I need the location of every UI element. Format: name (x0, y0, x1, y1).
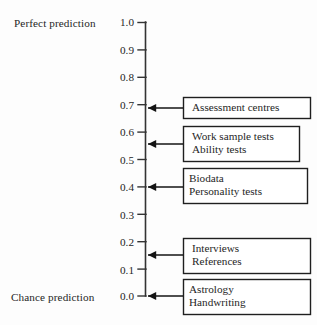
box-label-work-sample-ability: Work sample tests Ability tests (192, 130, 274, 155)
tick-label-0.1: 0.1 (108, 264, 134, 276)
box-label-interviews-references: Interviews References (192, 242, 242, 267)
tick-label-0.0: 0.0 (108, 290, 134, 302)
box-line: Astrology (189, 283, 246, 296)
box-line: Assessment centres (192, 101, 279, 114)
tick-label-0.7: 0.7 (108, 99, 134, 111)
chance-prediction-label: Chance prediction (11, 291, 94, 303)
box-label-biodata-personality: Biodata Personality tests (189, 172, 262, 197)
tick-label-0.2: 0.2 (108, 236, 134, 248)
figure-canvas (0, 0, 317, 325)
validity-scale-figure: Perfect prediction Chance prediction 1.0… (0, 0, 317, 325)
box-line: Interviews (192, 242, 242, 255)
tick-label-0.6: 0.6 (108, 126, 134, 138)
tick-label-0.3: 0.3 (108, 209, 134, 221)
box-label-assessment-centres: Assessment centres (192, 101, 279, 114)
box-line: Handwriting (189, 296, 246, 309)
box-label-astrology-handwriting: Astrology Handwriting (189, 283, 246, 308)
box-line: Ability tests (192, 143, 274, 156)
tick-label-1.0: 1.0 (108, 16, 134, 28)
box-line: Work sample tests (192, 130, 274, 143)
tick-label-0.5: 0.5 (108, 154, 134, 166)
tick-label-0.8: 0.8 (108, 71, 134, 83)
box-line: Biodata (189, 172, 262, 185)
arrow-connectors (148, 108, 183, 296)
perfect-prediction-label: Perfect prediction (14, 17, 96, 29)
tick-label-0.9: 0.9 (108, 44, 134, 56)
box-line: References (192, 255, 242, 268)
box-line: Personality tests (189, 185, 262, 198)
tick-label-0.4: 0.4 (108, 181, 134, 193)
